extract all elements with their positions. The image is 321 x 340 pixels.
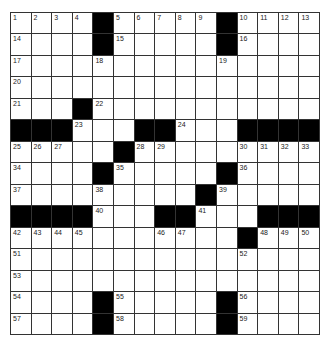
crossword-cell[interactable]: 10 — [238, 13, 259, 34]
crossword-cell[interactable] — [73, 142, 94, 163]
crossword-cell[interactable]: 40 — [93, 206, 114, 227]
crossword-cell[interactable] — [176, 314, 197, 335]
crossword-cell[interactable] — [32, 271, 53, 292]
crossword-cell[interactable]: 57 — [11, 314, 32, 335]
crossword-cell[interactable]: 7 — [155, 13, 176, 34]
crossword-cell[interactable]: 45 — [73, 228, 94, 249]
crossword-cell[interactable]: 8 — [176, 13, 197, 34]
crossword-cell[interactable] — [135, 314, 156, 335]
crossword-cell[interactable] — [114, 99, 135, 120]
crossword-cell[interactable] — [114, 185, 135, 206]
crossword-cell[interactable] — [32, 56, 53, 77]
crossword-cell[interactable] — [176, 292, 197, 313]
crossword-cell[interactable]: 32 — [279, 142, 300, 163]
crossword-cell[interactable]: 20 — [11, 77, 32, 98]
crossword-cell[interactable] — [196, 142, 217, 163]
crossword-cell[interactable] — [32, 292, 53, 313]
crossword-cell[interactable]: 15 — [114, 34, 135, 55]
crossword-cell[interactable]: 28 — [135, 142, 156, 163]
crossword-cell[interactable] — [279, 56, 300, 77]
crossword-cell[interactable] — [279, 271, 300, 292]
crossword-cell[interactable] — [135, 228, 156, 249]
crossword-cell[interactable] — [258, 271, 279, 292]
crossword-cell[interactable] — [217, 228, 238, 249]
crossword-cell[interactable]: 30 — [238, 142, 259, 163]
crossword-cell[interactable]: 12 — [279, 13, 300, 34]
crossword-cell[interactable]: 37 — [11, 185, 32, 206]
crossword-cell[interactable] — [217, 99, 238, 120]
crossword-cell[interactable]: 38 — [93, 185, 114, 206]
crossword-cell[interactable] — [135, 249, 156, 270]
crossword-cell[interactable] — [196, 34, 217, 55]
crossword-cell[interactable] — [73, 185, 94, 206]
crossword-cell[interactable]: 42 — [11, 228, 32, 249]
crossword-cell[interactable] — [52, 292, 73, 313]
crossword-cell[interactable]: 50 — [299, 228, 320, 249]
crossword-cell[interactable]: 46 — [155, 228, 176, 249]
crossword-cell[interactable] — [176, 142, 197, 163]
crossword-cell[interactable] — [299, 271, 320, 292]
crossword-cell[interactable]: 59 — [238, 314, 259, 335]
crossword-cell[interactable] — [32, 163, 53, 184]
crossword-cell[interactable] — [155, 249, 176, 270]
crossword-cell[interactable]: 13 — [299, 13, 320, 34]
crossword-cell[interactable] — [279, 249, 300, 270]
crossword-cell[interactable]: 21 — [11, 99, 32, 120]
crossword-cell[interactable]: 34 — [11, 163, 32, 184]
crossword-cell[interactable] — [176, 271, 197, 292]
crossword-cell[interactable] — [52, 34, 73, 55]
crossword-cell[interactable]: 58 — [114, 314, 135, 335]
crossword-cell[interactable] — [32, 99, 53, 120]
crossword-cell[interactable] — [114, 271, 135, 292]
crossword-cell[interactable]: 5 — [114, 13, 135, 34]
crossword-cell[interactable] — [155, 314, 176, 335]
crossword-cell[interactable] — [279, 34, 300, 55]
crossword-cell[interactable]: 1 — [11, 13, 32, 34]
crossword-cell[interactable] — [32, 249, 53, 270]
crossword-cell[interactable] — [238, 99, 259, 120]
crossword-cell[interactable] — [258, 292, 279, 313]
crossword-cell[interactable] — [114, 120, 135, 141]
crossword-cell[interactable] — [155, 163, 176, 184]
crossword-cell[interactable] — [238, 185, 259, 206]
crossword-cell[interactable] — [155, 56, 176, 77]
crossword-cell[interactable] — [217, 271, 238, 292]
crossword-cell[interactable] — [135, 292, 156, 313]
crossword-cell[interactable] — [299, 185, 320, 206]
crossword-cell[interactable] — [93, 142, 114, 163]
crossword-cell[interactable] — [73, 34, 94, 55]
crossword-cell[interactable] — [73, 163, 94, 184]
crossword-cell[interactable] — [176, 56, 197, 77]
crossword-cell[interactable] — [135, 99, 156, 120]
crossword-cell[interactable]: 16 — [238, 34, 259, 55]
crossword-cell[interactable] — [176, 163, 197, 184]
crossword-cell[interactable] — [155, 77, 176, 98]
crossword-cell[interactable]: 2 — [32, 13, 53, 34]
crossword-cell[interactable] — [258, 163, 279, 184]
crossword-cell[interactable] — [93, 271, 114, 292]
crossword-cell[interactable] — [196, 77, 217, 98]
crossword-cell[interactable] — [73, 77, 94, 98]
crossword-cell[interactable]: 36 — [238, 163, 259, 184]
crossword-cell[interactable] — [299, 77, 320, 98]
crossword-cell[interactable] — [196, 163, 217, 184]
crossword-cell[interactable] — [52, 77, 73, 98]
crossword-cell[interactable]: 22 — [93, 99, 114, 120]
crossword-cell[interactable] — [238, 77, 259, 98]
crossword-cell[interactable]: 4 — [73, 13, 94, 34]
crossword-cell[interactable] — [258, 314, 279, 335]
crossword-cell[interactable] — [52, 314, 73, 335]
crossword-cell[interactable] — [32, 185, 53, 206]
crossword-cell[interactable]: 19 — [217, 56, 238, 77]
crossword-cell[interactable] — [32, 314, 53, 335]
crossword-cell[interactable]: 39 — [217, 185, 238, 206]
crossword-cell[interactable] — [176, 249, 197, 270]
crossword-cell[interactable] — [217, 206, 238, 227]
crossword-cell[interactable] — [217, 77, 238, 98]
crossword-cell[interactable] — [299, 314, 320, 335]
crossword-cell[interactable] — [279, 77, 300, 98]
crossword-cell[interactable] — [279, 314, 300, 335]
crossword-cell[interactable] — [155, 271, 176, 292]
crossword-cell[interactable]: 51 — [11, 249, 32, 270]
crossword-cell[interactable]: 11 — [258, 13, 279, 34]
